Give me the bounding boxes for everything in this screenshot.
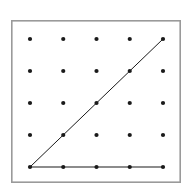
lattice-dot xyxy=(61,165,65,169)
lattice-dot xyxy=(28,37,32,41)
figure-container xyxy=(0,0,192,195)
lattice-dot xyxy=(28,101,32,105)
lattice-dot xyxy=(94,69,98,73)
lattice-dot xyxy=(94,133,98,137)
lattice-dot xyxy=(28,133,32,137)
lattice-grid-figure xyxy=(0,0,192,195)
lattice-dot xyxy=(28,165,32,169)
lattice-dot xyxy=(128,133,132,137)
lattice-dot xyxy=(161,165,165,169)
lattice-dot xyxy=(161,69,165,73)
lattice-dot xyxy=(61,101,65,105)
lattice-dot xyxy=(128,37,132,41)
lattice-dot xyxy=(61,37,65,41)
lattice-dot xyxy=(128,165,132,169)
lattice-dot xyxy=(28,69,32,73)
lattice-dot xyxy=(94,101,98,105)
lattice-dot xyxy=(128,69,132,73)
lattice-dot xyxy=(94,37,98,41)
lattice-dot xyxy=(61,133,65,137)
lattice-dot xyxy=(94,165,98,169)
lattice-dot xyxy=(161,133,165,137)
lattice-dot xyxy=(161,101,165,105)
lattice-dot xyxy=(128,101,132,105)
lattice-dot xyxy=(61,69,65,73)
lattice-dot xyxy=(161,37,165,41)
